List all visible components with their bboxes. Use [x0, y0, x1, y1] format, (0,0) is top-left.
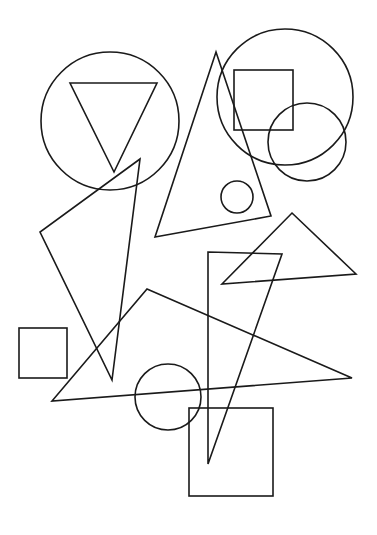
- circle-top-right-small: [268, 103, 346, 181]
- circle-small-middle: [221, 181, 253, 213]
- square-bottom: [189, 408, 273, 496]
- triangle-right: [222, 213, 356, 284]
- triangle-inverted: [70, 83, 157, 172]
- circle-top-right-large: [217, 29, 353, 165]
- shapes-canvas: [0, 0, 377, 535]
- triangle-left: [40, 159, 140, 380]
- squares-group: [19, 70, 293, 496]
- triangle-tall-middle: [155, 52, 271, 237]
- triangles-group: [40, 52, 356, 464]
- circle-bottom: [135, 364, 201, 430]
- triangle-wide: [52, 289, 352, 401]
- square-top-right: [234, 70, 293, 130]
- triangle-narrow: [208, 252, 282, 464]
- circle-top-left: [41, 52, 179, 190]
- square-left: [19, 328, 67, 378]
